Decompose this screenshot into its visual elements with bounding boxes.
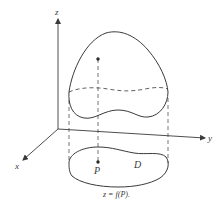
surface-point (96, 57, 99, 60)
function-caption: z = f(P). (103, 191, 130, 199)
domain-region (69, 147, 168, 187)
surface-top-outline (69, 32, 168, 92)
z-axis-label: z (55, 8, 59, 17)
point-p-label: P (94, 166, 100, 176)
surface-diagram (0, 0, 223, 215)
diagram-canvas: z y x P D z = f(P). (0, 0, 223, 215)
domain-point-p (96, 160, 99, 163)
x-axis (23, 129, 58, 160)
y-axis-label: y (208, 134, 212, 143)
domain-d-label: D (134, 160, 141, 170)
surface-bottom-edge (69, 92, 168, 118)
x-axis-label: x (15, 162, 19, 171)
y-axis (58, 129, 205, 138)
